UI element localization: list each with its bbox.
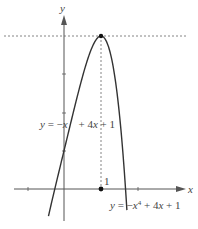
- y-axis-arrow-icon: [61, 15, 67, 25]
- curve-label-right: y = −x4 + 4x + 1: [109, 199, 181, 211]
- chart: y x 1 y = −x + 4x + 1 y = −x4 + 4x + 1: [0, 0, 198, 229]
- x-axis-arrow-icon: [176, 186, 186, 192]
- x-one-point: [99, 187, 104, 192]
- vertex-point: [99, 34, 103, 38]
- point-label: 1: [104, 175, 110, 187]
- curve-label-left: y = −x + 4x + 1: [39, 118, 115, 130]
- x-axis-label: x: [187, 183, 193, 195]
- y-axis-label: y: [59, 2, 65, 14]
